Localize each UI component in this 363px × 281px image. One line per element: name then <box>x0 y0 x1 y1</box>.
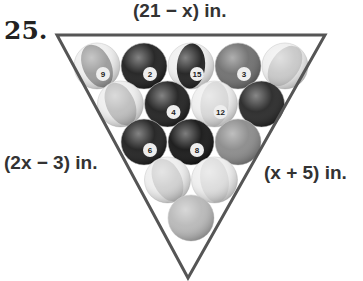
ball-number: 12 <box>216 108 225 117</box>
billiard-balls: 9215341268 <box>74 39 309 241</box>
billiard-rack-figure: 9215341268 <box>0 0 363 281</box>
ball-number: 4 <box>171 108 176 117</box>
ball-number: 15 <box>193 70 202 79</box>
ball-number: 3 <box>242 70 247 79</box>
ball-number: 6 <box>148 146 153 155</box>
ball-number: 2 <box>148 70 153 79</box>
ball-number: 9 <box>101 70 106 79</box>
billiard-ball <box>168 195 214 241</box>
ball-number: 8 <box>195 146 200 155</box>
